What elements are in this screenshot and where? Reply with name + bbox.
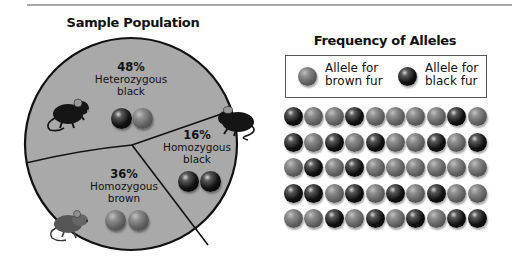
allele-grid — [284, 107, 488, 235]
slice-label-heterozygous-black: 48% Heterozygous black — [91, 61, 171, 97]
slice-percent: 36% — [86, 168, 162, 180]
allele-ball-brown — [304, 107, 323, 126]
allele-ball-black — [111, 108, 132, 129]
allele-ball-brown — [406, 184, 425, 203]
black-allele-icon — [398, 67, 417, 86]
allele-ball-brown — [386, 158, 405, 177]
allele-ball-black — [386, 184, 405, 203]
allele-ball-black — [345, 107, 364, 126]
allele-ball-black — [325, 209, 344, 228]
allele-row — [284, 133, 488, 154]
allele-ball-brown — [427, 158, 446, 177]
allele-ball-brown — [386, 209, 405, 228]
allele-ball-brown — [284, 158, 303, 177]
allele-ball-brown — [132, 108, 153, 129]
allele-ball-black — [304, 158, 323, 177]
allele-ball-black — [200, 171, 221, 192]
allele-ball-black — [366, 209, 385, 228]
allele-ball-brown — [128, 210, 149, 231]
allele-frequency-title: Frequency of Alleles — [300, 33, 470, 48]
allele-ball-brown — [427, 209, 446, 228]
allele-ball-brown — [447, 184, 466, 203]
allele-ball-brown — [406, 133, 425, 152]
allele-row — [284, 209, 488, 230]
slice-phenotype: black — [160, 153, 234, 165]
allele-ball-black — [304, 184, 323, 203]
allele-ball-black — [345, 158, 364, 177]
slice-label-homozygous-brown: 36% Homozygous brown — [86, 168, 162, 204]
allele-ball-brown — [345, 209, 364, 228]
slice-phenotype: black — [91, 85, 171, 97]
allele-ball-brown — [468, 158, 487, 177]
allele-ball-black — [468, 133, 487, 152]
allele-ball-brown — [325, 158, 344, 177]
allele-ball-black — [427, 133, 446, 152]
legend-label: Allele for brown fur — [325, 62, 383, 88]
allele-ball-black — [325, 133, 344, 152]
allele-ball-brown — [304, 209, 323, 228]
allele-ball-black — [468, 209, 487, 228]
slice-genotype: Homozygous — [160, 141, 234, 153]
allele-ball-black — [406, 209, 425, 228]
allele-ball-brown — [386, 107, 405, 126]
allele-ball-brown — [366, 107, 385, 126]
slice-genotype: Heterozygous — [91, 73, 171, 85]
slice-genotype: Homozygous — [86, 180, 162, 192]
allele-ball-brown — [447, 158, 466, 177]
allele-ball-black — [447, 209, 466, 228]
allele-legend: Allele for brown fur Allele for black fu… — [285, 55, 487, 98]
allele-row — [284, 184, 488, 205]
slice-percent: 16% — [160, 129, 234, 141]
allele-ball-brown — [325, 107, 344, 126]
allele-ball-brown — [345, 133, 364, 152]
slice-label-homozygous-black: 16% Homozygous black — [160, 129, 234, 165]
allele-row — [284, 158, 488, 179]
allele-ball-brown — [366, 184, 385, 203]
allele-ball-black — [427, 184, 446, 203]
allele-ball-black — [284, 133, 303, 152]
allele-ball-brown — [105, 210, 126, 231]
allele-ball-black — [345, 184, 364, 203]
allele-ball-brown — [427, 107, 446, 126]
allele-ball-black — [366, 133, 385, 152]
allele-ball-brown — [468, 107, 487, 126]
allele-ball-black — [284, 184, 303, 203]
allele-ball-black — [284, 107, 303, 126]
allele-ball-brown — [468, 184, 487, 203]
slice-phenotype: brown — [86, 192, 162, 204]
allele-ball-black — [447, 107, 466, 126]
slice-percent: 48% — [91, 61, 171, 73]
allele-ball-brown — [406, 107, 425, 126]
allele-ball-brown — [304, 133, 323, 152]
allele-row — [284, 107, 488, 128]
allele-ball-brown — [406, 158, 425, 177]
allele-ball-brown — [366, 158, 385, 177]
allele-ball-brown — [284, 209, 303, 228]
allele-ball-brown — [447, 133, 466, 152]
allele-ball-black — [178, 171, 199, 192]
allele-ball-brown — [325, 184, 344, 203]
brown-allele-icon — [298, 67, 317, 86]
allele-ball-brown — [386, 133, 405, 152]
legend-label: Allele for black fur — [425, 62, 478, 88]
